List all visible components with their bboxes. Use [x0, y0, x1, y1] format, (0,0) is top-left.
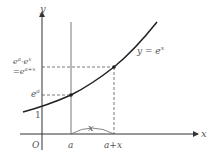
y-tick-product-line1: ea·ex	[13, 56, 32, 66]
point-a-ea	[69, 93, 73, 97]
y-tick-product-line2: =ea+x	[13, 66, 36, 76]
y-axis-label: y	[39, 3, 46, 14]
x-tick-a-plus-x: a+x	[104, 140, 122, 150]
y-tick-ea: ea	[31, 87, 40, 99]
interval-label: x	[88, 122, 94, 133]
x-tick-a: a	[68, 140, 73, 150]
x-axis-label: x	[201, 128, 207, 139]
curve-label: y = ex	[136, 44, 165, 56]
y-tick-one: 1	[35, 110, 41, 120]
origin-label: O	[32, 140, 40, 150]
point-ax-eax	[112, 65, 116, 69]
exponential-diagram: x y x O a a+x 1 ea ea·ex =ea+x y = ex	[0, 0, 212, 155]
